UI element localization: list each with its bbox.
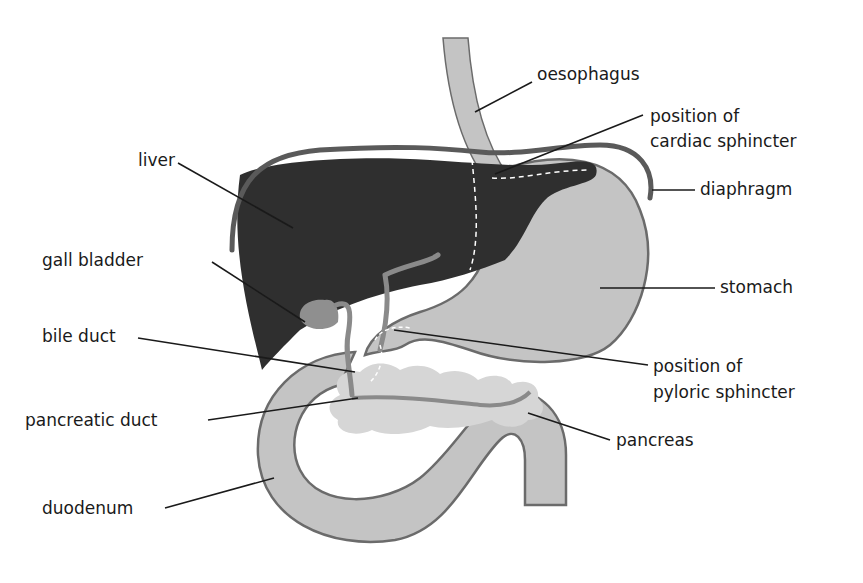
oesophagus-leader bbox=[475, 82, 532, 112]
label-oesophagus: oesophagus bbox=[537, 64, 640, 84]
label-pyloric-1: position of bbox=[653, 356, 743, 376]
label-pancreatic-duct: pancreatic duct bbox=[25, 410, 158, 430]
label-cardiac-1: position of bbox=[650, 106, 740, 126]
label-stomach: stomach bbox=[720, 277, 793, 297]
label-cardiac-2: cardiac sphincter bbox=[650, 131, 797, 151]
label-bile-duct: bile duct bbox=[42, 326, 116, 346]
label-pyloric-2: pyloric sphincter bbox=[653, 382, 795, 402]
label-duodenum: duodenum bbox=[42, 498, 133, 518]
label-diaphragm: diaphragm bbox=[700, 179, 792, 199]
label-gall-bladder: gall bladder bbox=[42, 250, 143, 270]
duodenum-leader bbox=[165, 478, 274, 508]
bile-duct-leader bbox=[138, 338, 355, 372]
digestive-system-diagram: oesophagus position of cardiac sphincter… bbox=[0, 0, 863, 583]
label-liver: liver bbox=[138, 150, 175, 170]
label-pancreas: pancreas bbox=[616, 430, 694, 450]
